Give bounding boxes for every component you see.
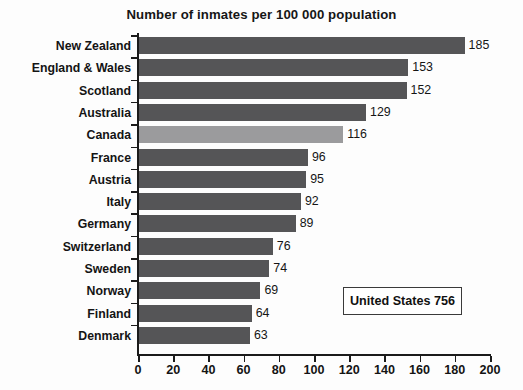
x-axis-tick [455,356,457,362]
bar [139,104,366,121]
chart-screenshot: Number of inmates per 100 000 population… [0,0,523,390]
bar [139,238,273,255]
x-axis-tick [349,356,351,362]
bar-value-label: 96 [308,149,326,166]
x-axis-tick-label: 200 [468,363,512,377]
y-axis-tick [131,213,138,215]
bar-row: Denmark63 [0,325,523,347]
y-axis-tick [131,325,138,327]
bar-value-label: 95 [306,171,324,188]
y-axis-tick [131,236,138,238]
category-label: Australia [0,102,131,124]
bar-row: Italy92 [0,191,523,213]
bar-value-label: 63 [250,327,268,344]
united-states-callout: United States 756 [343,287,462,315]
category-label: Italy [0,191,131,213]
category-label: Germany [0,213,131,235]
y-axis-tick [131,280,138,282]
x-axis-tick [279,356,281,362]
category-label: Scotland [0,80,131,102]
y-axis-tick [131,258,138,260]
category-label: New Zealand [0,35,131,57]
plot-area: New Zealand185England & Wales153Scotland… [0,0,523,390]
category-label: France [0,147,131,169]
y-axis-tick [131,169,138,171]
y-axis-tick [131,191,138,193]
bar-row: New Zealand185 [0,35,523,57]
x-axis-tick [208,356,210,362]
bar [139,59,408,76]
bar-value-label: 153 [408,59,433,76]
category-label: Austria [0,169,131,191]
bar-row: Sweden74 [0,258,523,280]
bar-value-label: 152 [407,82,432,99]
y-axis-tick [131,124,138,126]
x-axis-tick [138,356,140,362]
united-states-callout-text: United States 756 [350,294,455,308]
bar-row: Switzerland76 [0,236,523,258]
bar [139,37,465,54]
x-axis-tick [244,356,246,362]
category-label: England & Wales [0,57,131,79]
bar-row: Austria95 [0,169,523,191]
bar-row: France96 [0,147,523,169]
x-axis-tick [384,356,386,362]
bar-value-label: 116 [343,126,367,143]
bar-row: Canada116 [0,124,523,146]
x-axis-tick [420,356,422,362]
category-label: Switzerland [0,236,131,258]
bar-value-label: 129 [366,104,391,121]
bar [139,282,260,299]
y-axis-tick [131,57,138,59]
y-axis-tick [131,102,138,104]
y-axis-tick [131,80,138,82]
bar [139,171,306,188]
bar-row: Australia129 [0,102,523,124]
x-axis-tick [490,356,492,362]
bar [139,215,296,232]
bar-value-label: 89 [296,215,314,232]
bar-value-label: 92 [301,193,319,210]
bar-value-label: 185 [465,37,490,54]
bar-value-label: 74 [269,260,287,277]
bar-row: Scotland152 [0,80,523,102]
bar-value-label: 69 [260,282,278,299]
bar [139,149,308,166]
y-axis-tick [131,35,138,37]
bar [139,327,250,344]
category-label: Sweden [0,258,131,280]
x-axis-tick [173,356,175,362]
bar [139,260,269,277]
bar-row: Germany89 [0,213,523,235]
bar-row: England & Wales153 [0,57,523,79]
y-axis-tick [131,303,138,305]
bar-highlighted [139,126,343,143]
category-label: Canada [0,124,131,146]
bar [139,82,407,99]
category-label: Denmark [0,325,131,347]
bar [139,305,252,322]
category-label: Finland [0,303,131,325]
y-axis-tick [131,147,138,149]
bar [139,193,301,210]
bar-value-label: 76 [273,238,291,255]
bar-value-label: 64 [252,305,270,322]
x-axis-tick [314,356,316,362]
category-label: Norway [0,280,131,302]
